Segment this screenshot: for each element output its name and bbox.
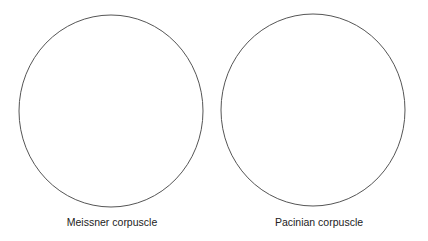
diagram-canvas xyxy=(0,0,428,241)
meissner-corpuscle-label: Meissner corpuscle xyxy=(67,216,157,228)
meissner-corpuscle-circle xyxy=(19,15,203,207)
pacinian-corpuscle-label: Pacinian corpuscle xyxy=(275,216,363,228)
pacinian-corpuscle-circle xyxy=(221,14,405,206)
